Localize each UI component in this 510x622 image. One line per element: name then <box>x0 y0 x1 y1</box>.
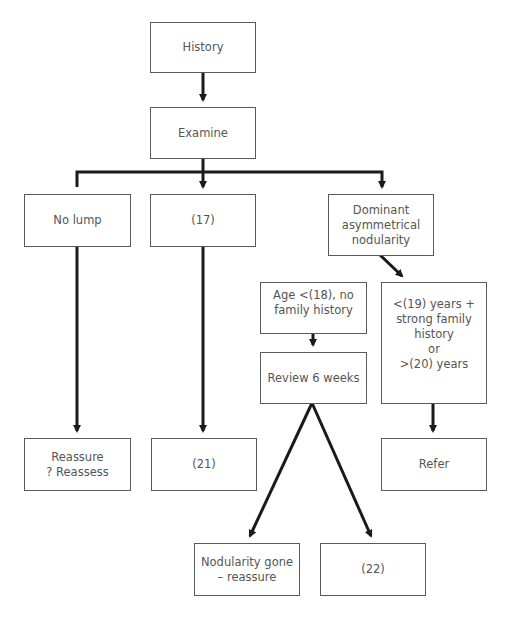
node-dominant-nodularity: Dominant asymmetrical nodularity <box>328 194 434 256</box>
node-21: (21) <box>151 438 257 491</box>
node-22: (22) <box>320 543 426 596</box>
node-review-6-weeks: Review 6 weeks <box>260 352 367 404</box>
node-no-lump: No lump <box>24 194 131 247</box>
node-examine: Examine <box>150 107 256 159</box>
node-refer: Refer <box>381 438 487 491</box>
node-age-no-family-history: Age <(18), no family history <box>260 282 367 334</box>
node-reassure: Reassure ? Reassess <box>24 438 131 491</box>
node-17: (17) <box>150 194 256 247</box>
node-history: History <box>150 22 256 73</box>
node-nodularity-gone: Nodularity gone – reassure <box>194 543 300 596</box>
node-risk-criteria: <(19) years + strong family history or >… <box>381 282 487 404</box>
